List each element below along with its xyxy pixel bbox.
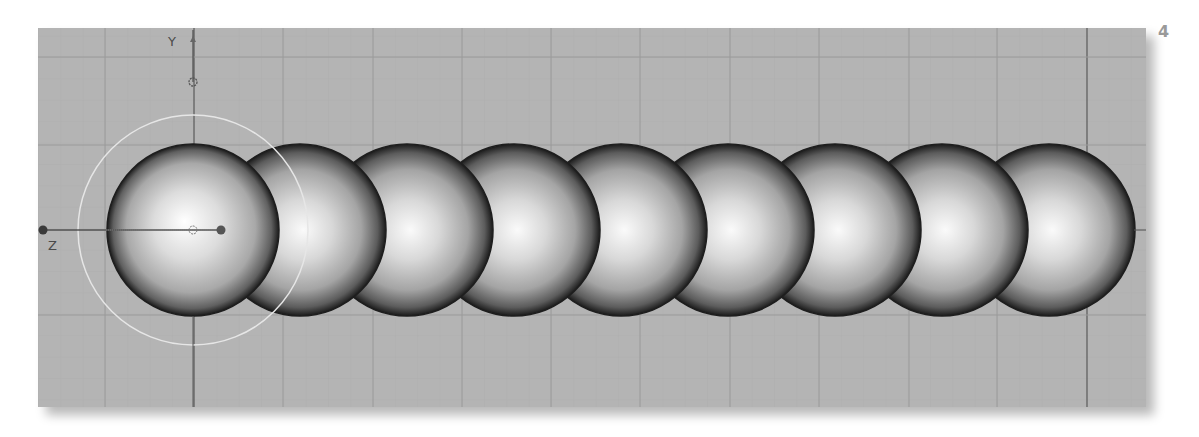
3d-viewport[interactable]: Y Z <box>38 28 1146 407</box>
sphere-array[interactable] <box>107 144 1135 316</box>
y-axis-label: Y <box>168 34 176 49</box>
step-number: 4 <box>1158 22 1169 41</box>
x-axis-handle[interactable] <box>217 226 226 235</box>
viewport-canvas[interactable] <box>38 28 1146 407</box>
z-axis-handle[interactable] <box>39 226 48 235</box>
z-axis-label: Z <box>48 238 57 253</box>
